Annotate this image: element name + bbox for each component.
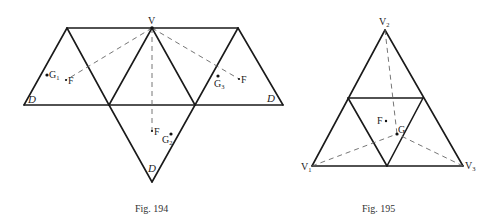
bottom-right-edge <box>152 105 195 182</box>
point-g2 <box>169 132 172 135</box>
label-f: F <box>377 115 383 126</box>
label-v2: V2 <box>379 16 389 28</box>
label-g3: G3 <box>214 78 224 90</box>
diagram-canvas: V G1 F G3 F F G2 D D D Fig. 194 V2 V1 V3… <box>0 0 496 218</box>
label-d-left: D <box>27 93 36 105</box>
point-f-right <box>238 78 240 80</box>
label-g: G <box>398 124 405 135</box>
point-f-bottom <box>151 130 153 132</box>
inner-edge-2 <box>109 28 152 105</box>
label-v1: V1 <box>301 161 311 173</box>
dashed-line-left <box>66 28 152 80</box>
label-v: V <box>148 15 156 26</box>
label-d-bottom: D <box>147 162 156 174</box>
label-f-bottom: F <box>154 126 160 137</box>
bottom-left-edge <box>109 105 152 182</box>
caption-fig-194: Fig. 194 <box>135 203 168 214</box>
figure-194: V G1 F G3 F F G2 D D D Fig. 194 <box>24 15 283 214</box>
right-edge <box>238 28 283 105</box>
dashed-line-right <box>152 28 239 79</box>
label-v3: V3 <box>465 160 475 172</box>
label-f-right: F <box>241 74 247 85</box>
point-f <box>385 120 387 122</box>
label-g1: G1 <box>49 69 59 81</box>
caption-fig-195: Fig. 195 <box>362 203 395 214</box>
dashed-v2-g <box>385 30 397 134</box>
inner-edge-3 <box>152 28 195 105</box>
point-f-left <box>65 79 67 81</box>
label-d-right: D <box>266 92 275 104</box>
inner-edge-4 <box>195 28 238 105</box>
medial-left-edge <box>348 98 387 166</box>
label-g2: G2 <box>162 134 172 146</box>
vertex-v-point <box>150 26 154 30</box>
label-f-left: F <box>68 75 74 86</box>
figure-195: V2 V1 V3 F G Fig. 195 <box>301 16 475 214</box>
